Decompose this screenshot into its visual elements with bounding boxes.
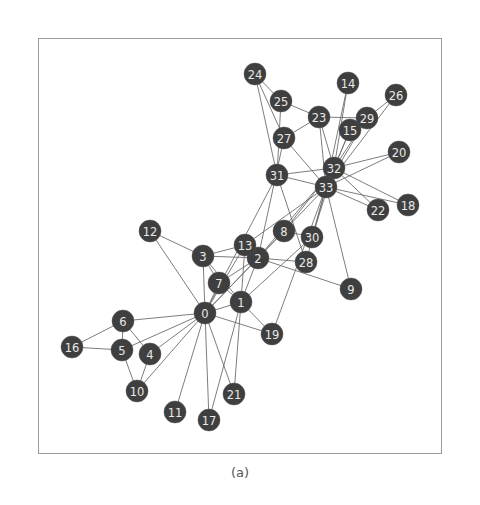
node-label: 6 (119, 315, 126, 329)
node-27: 27 (273, 127, 295, 149)
node-0: 0 (194, 302, 216, 324)
node-label: 25 (274, 95, 289, 109)
node-label: 27 (277, 132, 292, 146)
edge-18-32 (334, 168, 408, 205)
node-label: 0 (201, 307, 208, 321)
node-16: 16 (61, 336, 83, 358)
node-label: 4 (146, 348, 153, 362)
node-1: 1 (230, 291, 252, 313)
edge-0-12 (150, 231, 205, 313)
node-19: 19 (261, 323, 283, 345)
node-label: 7 (215, 277, 222, 291)
node-26: 26 (385, 84, 407, 106)
node-label: 16 (65, 341, 80, 355)
node-label: 9 (347, 283, 354, 297)
node-24: 24 (244, 63, 266, 85)
edge-18-33 (326, 187, 408, 205)
node-4: 4 (139, 343, 161, 365)
node-label: 32 (327, 162, 342, 176)
node-label: 14 (341, 77, 356, 91)
edge-24-31 (255, 74, 277, 175)
node-25: 25 (270, 90, 292, 112)
node-label: 21 (227, 388, 242, 402)
node-3: 3 (192, 245, 214, 267)
network-figure: 0123456789101112131415161718192021222324… (0, 0, 480, 505)
network-graph: 0123456789101112131415161718192021222324… (0, 0, 480, 505)
edge-0-17 (205, 313, 209, 420)
node-31: 31 (266, 164, 288, 186)
node-label: 31 (270, 169, 285, 183)
node-label: 13 (238, 239, 253, 253)
node-label: 15 (343, 124, 358, 138)
node-label: 23 (312, 111, 327, 125)
node-label: 17 (202, 414, 217, 428)
node-21: 21 (223, 383, 245, 405)
node-20: 20 (388, 141, 410, 163)
node-label: 3 (199, 250, 206, 264)
nodes-layer: 0123456789101112131415161718192021222324… (61, 63, 419, 431)
node-label: 10 (130, 385, 145, 399)
figure-caption: (a) (0, 465, 480, 480)
node-23: 23 (308, 106, 330, 128)
node-32: 32 (323, 157, 345, 179)
edge-0-11 (175, 313, 205, 412)
node-28: 28 (295, 251, 317, 273)
node-22: 22 (367, 199, 389, 221)
node-label: 8 (280, 225, 287, 239)
node-label: 22 (371, 204, 386, 218)
node-label: 11 (168, 406, 183, 420)
node-29: 29 (356, 107, 378, 129)
node-13: 13 (234, 234, 256, 256)
node-label: 12 (143, 225, 158, 239)
node-label: 29 (360, 112, 375, 126)
node-14: 14 (337, 72, 359, 94)
node-label: 20 (392, 146, 407, 160)
node-label: 24 (248, 68, 263, 82)
node-label: 30 (305, 231, 320, 245)
node-label: 1 (237, 296, 244, 310)
edge-9-33 (326, 187, 351, 289)
node-30: 30 (301, 226, 323, 248)
node-11: 11 (164, 401, 186, 423)
edge-0-6 (123, 313, 205, 321)
node-18: 18 (397, 194, 419, 216)
node-17: 17 (198, 409, 220, 431)
node-label: 2 (254, 252, 261, 266)
node-5: 5 (111, 339, 133, 361)
node-8: 8 (273, 220, 295, 242)
node-9: 9 (340, 278, 362, 300)
node-label: 26 (389, 89, 404, 103)
node-6: 6 (112, 310, 134, 332)
node-33: 33 (315, 176, 337, 198)
node-12: 12 (139, 220, 161, 242)
node-7: 7 (208, 272, 230, 294)
node-10: 10 (126, 380, 148, 402)
node-label: 28 (299, 256, 314, 270)
node-label: 19 (265, 328, 280, 342)
node-label: 33 (319, 181, 334, 195)
node-label: 18 (401, 199, 416, 213)
node-label: 5 (118, 344, 125, 358)
